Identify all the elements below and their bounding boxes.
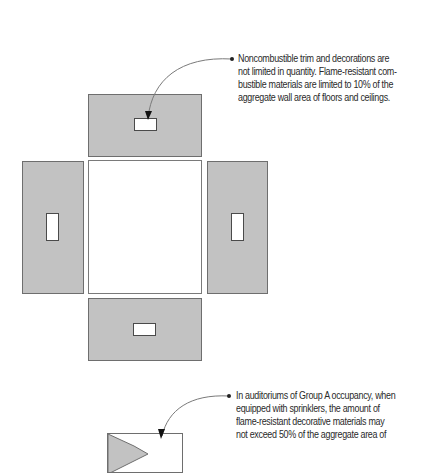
auditorium-diagram-box	[107, 433, 183, 473]
top-note: Noncombustible trim and decorations are …	[238, 52, 397, 104]
right-wall-opening	[231, 213, 244, 241]
floor-opening	[133, 323, 156, 336]
left-wall-opening	[46, 213, 59, 241]
bottom-note-line: equipped with sprinklers, the amount of	[236, 402, 395, 415]
top-note-line: bustible materials are limited to 10% of…	[238, 78, 397, 91]
bottom-bullet-icon	[227, 394, 231, 398]
bottom-note-line: flame-resistant decorative materials may	[236, 415, 395, 428]
top-bullet-icon	[230, 57, 234, 61]
bottom-leader-line	[162, 396, 229, 436]
top-note-line: aggregate wall area of floors and ceilin…	[238, 91, 397, 104]
ceiling-opening	[134, 118, 157, 131]
room-plan-box	[88, 160, 202, 294]
top-note-line: not limited in quantity. Flame-resistant…	[238, 65, 397, 78]
bottom-note-line: not exceed 50% of the aggregate area of	[236, 428, 395, 441]
top-note-line: Noncombustible trim and decorations are	[238, 52, 397, 65]
bottom-note: In auditoriums of Group A occupancy, whe…	[236, 389, 395, 441]
shaded-wedge-icon	[108, 434, 183, 473]
bottom-note-line: In auditoriums of Group A occupancy, whe…	[236, 389, 395, 402]
